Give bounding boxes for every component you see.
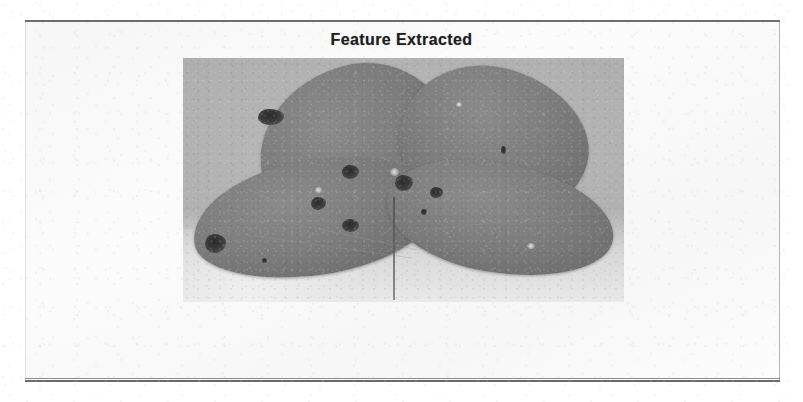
scanned-page: Feature Extracted	[0, 0, 803, 402]
horizontal-rule-bottom	[25, 380, 780, 382]
lesion-4	[342, 219, 359, 232]
horizontal-rule-bottom-thin	[25, 378, 780, 379]
page-border-right	[779, 20, 780, 380]
leaf-photograph	[183, 58, 624, 302]
lesion-10	[501, 146, 506, 154]
page-border-left	[25, 20, 26, 380]
leaf-stem	[393, 197, 395, 299]
horizontal-rule-top	[25, 20, 780, 22]
figure-title: Feature Extracted	[0, 31, 803, 49]
photo-highlight-2	[390, 168, 399, 176]
